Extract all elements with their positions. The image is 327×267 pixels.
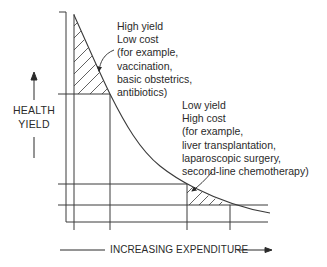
high-cost-title: High cost (182, 112, 309, 125)
x-axis-label: INCREASING EXPENDITURE (110, 244, 248, 255)
high-yield-pointer-arrow (99, 50, 114, 71)
low-cost-title: Low cost (117, 33, 192, 46)
low-yield-title: Low yield (182, 99, 309, 112)
low-yield-example: liver transplantation, (182, 139, 309, 152)
low-yield-hatch (180, 180, 252, 206)
high-yield-example: antibiotics) (117, 86, 192, 99)
y-axis-label-line2: YIELD (4, 118, 64, 132)
y-axis-label: HEALTH YIELD (4, 104, 64, 131)
high-yield-title: High yield (117, 20, 192, 33)
low-yield-annotation: Low yield High cost (for example, liver … (182, 99, 309, 178)
high-yield-example: basic obstetrics, (117, 73, 192, 86)
low-yield-example: laparoscopic surgery, (182, 152, 309, 165)
high-yield-examples-intro: (for example, (117, 46, 192, 59)
high-yield-annotation: High yield Low cost (for example, vaccin… (117, 20, 192, 99)
low-yield-examples-intro: (for example, (182, 125, 309, 138)
low-yield-example: second-line chemotherapy) (182, 165, 309, 178)
y-axis-label-line1: HEALTH (4, 104, 64, 118)
high-yield-example: vaccination, (117, 60, 192, 73)
